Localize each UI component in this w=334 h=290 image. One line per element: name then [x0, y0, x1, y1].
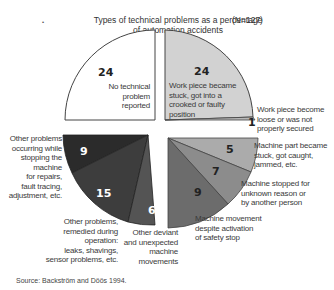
- label-line: Work piece became: [169, 81, 249, 91]
- value-safety: 9: [194, 186, 202, 199]
- value-stopped: 7: [212, 165, 220, 178]
- label-stopped: Machine stopped for unknown reason or by…: [241, 179, 331, 208]
- label-line: Machine part became: [254, 141, 334, 151]
- label-line: No technical: [96, 82, 150, 92]
- label-line: loose or was not: [257, 115, 334, 125]
- label-line: jammed, etc.: [254, 160, 334, 170]
- label-no-problem: No technical problem reported: [96, 82, 150, 111]
- label-line: position: [169, 110, 249, 120]
- label-line: stuck, got caught,: [254, 151, 334, 161]
- value-stopping: 9: [80, 145, 88, 158]
- label-deviant: Other deviant and unexpected machine mov…: [122, 228, 178, 266]
- label-line: despite activation: [195, 224, 285, 234]
- label-line: machine: [0, 163, 62, 173]
- label-safety: Machine movement despite activation of s…: [195, 214, 285, 243]
- source-note: Source: Backström and Döös 1994.: [16, 277, 127, 284]
- label-line: movements: [122, 257, 178, 267]
- label-line: Other problems: [0, 134, 62, 144]
- label-line: operation:: [40, 236, 118, 246]
- label-line: reported: [96, 101, 150, 111]
- label-line: sensor problems, etc.: [40, 255, 118, 265]
- value-stuck: 24: [194, 65, 210, 78]
- label-machine-part: Machine part became stuck, got caught, j…: [254, 141, 334, 170]
- label-line: leaks, shavings,: [40, 246, 118, 256]
- label-line: occurring while: [0, 144, 62, 154]
- value-remedied: 15: [96, 187, 111, 200]
- label-line: Machine stopped for: [241, 179, 331, 189]
- label-line: Other problems,: [40, 217, 118, 227]
- label-line: Other deviant: [122, 228, 178, 238]
- label-line: properly secured: [257, 124, 334, 134]
- label-stuck: Work piece became stuck, got into a croo…: [169, 81, 249, 119]
- label-loose: Work piece become loose or was not prope…: [257, 105, 334, 134]
- value-machine-part: 5: [226, 143, 234, 156]
- label-line: for repairs,: [0, 172, 62, 182]
- label-line: adjustment, etc.: [0, 191, 62, 201]
- label-line: Machine movement: [195, 214, 285, 224]
- label-remedied: Other problems, remedied during operatio…: [40, 217, 118, 265]
- label-line: unknown reason or: [241, 189, 331, 199]
- value-no-problem: 24: [98, 66, 114, 79]
- label-line: machine: [122, 247, 178, 257]
- label-line: crooked or faulty: [169, 100, 249, 110]
- label-line: Work piece become: [257, 105, 334, 115]
- label-line: stopping the: [0, 153, 62, 163]
- label-line: of safety stop: [195, 233, 285, 243]
- label-line: problem: [96, 92, 150, 102]
- label-line: and unexpected: [122, 238, 178, 248]
- label-line: by another person: [241, 198, 331, 208]
- label-stopping: Other problems occurring while stopping …: [0, 134, 62, 201]
- value-loose: 1: [248, 116, 256, 129]
- label-line: remedied during: [40, 227, 118, 237]
- value-deviant: 6: [148, 204, 156, 217]
- label-line: fault tracing,: [0, 182, 62, 192]
- label-line: stuck, got into a: [169, 91, 249, 101]
